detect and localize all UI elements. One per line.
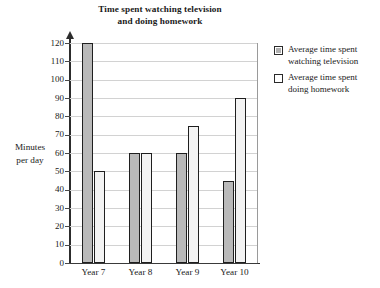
- bar-year-8-tv: [129, 153, 140, 263]
- chart-title: Time spent watching television and doing…: [60, 3, 260, 27]
- y-tick-80: [65, 116, 70, 117]
- y-tick-50: [65, 171, 70, 172]
- y-tick-30: [65, 208, 70, 209]
- y-tick-20: [65, 226, 70, 227]
- bar-year-9-tv: [176, 153, 187, 263]
- y-axis-arrow-icon: [66, 31, 74, 39]
- y-tick-110: [65, 61, 70, 62]
- y-tick-label-30: 30: [36, 204, 64, 213]
- legend-item-television: Average time spent watching television: [274, 44, 380, 67]
- chart-legend: Average time spent watching television A…: [274, 44, 380, 100]
- gridline-60: [70, 153, 258, 154]
- legend-label-television: Average time spent watching television: [288, 44, 358, 67]
- bar-year-10-hw: [235, 98, 246, 263]
- legend-label-television-line-1: Average time spent: [288, 44, 358, 56]
- chart-title-line-1: Time spent watching television: [60, 3, 260, 15]
- bar-year-7-tv: [82, 43, 93, 263]
- y-tick-70: [65, 135, 70, 136]
- bar-year-10-tv: [223, 181, 234, 264]
- legend-label-homework-line-1: Average time spent: [288, 72, 357, 84]
- gridline-90: [70, 98, 258, 99]
- legend-swatch-homework-icon: [274, 74, 283, 83]
- legend-label-homework-line-2: doing homework: [288, 84, 357, 96]
- gridline-110: [70, 61, 258, 62]
- y-axis-tick-labels: 0102030405060708090100110120: [31, 0, 64, 288]
- y-tick-90: [65, 98, 70, 99]
- y-tick-label-110: 110: [36, 57, 64, 66]
- bar-chart-figure: Time spent watching television and doing…: [0, 0, 380, 288]
- y-tick-label-10: 10: [36, 240, 64, 249]
- y-tick-label-90: 90: [36, 94, 64, 103]
- gridline-80: [70, 116, 258, 117]
- gridline-120: [70, 43, 258, 44]
- legend-label-television-line-2: watching television: [288, 56, 358, 68]
- y-tick-label-40: 40: [36, 185, 64, 194]
- gridline-100: [70, 80, 258, 81]
- gridline-70: [70, 135, 258, 136]
- x-label-year-10: Year 10: [207, 267, 263, 278]
- gridline-0: [70, 263, 258, 264]
- y-tick-60: [65, 153, 70, 154]
- y-tick-0: [65, 263, 70, 264]
- y-tick-120: [65, 43, 70, 44]
- plot-area: [70, 43, 258, 263]
- y-tick-label-100: 100: [36, 75, 64, 84]
- legend-swatch-television-icon: [274, 46, 283, 55]
- legend-item-homework: Average time spent doing homework: [274, 72, 380, 95]
- bar-year-9-hw: [188, 126, 199, 264]
- y-tick-40: [65, 190, 70, 191]
- y-tick-10: [65, 245, 70, 246]
- y-tick-label-20: 20: [36, 222, 64, 231]
- chart-title-line-2: and doing homework: [60, 15, 260, 27]
- legend-label-homework: Average time spent doing homework: [288, 72, 357, 95]
- y-tick-label-50: 50: [36, 167, 64, 176]
- y-tick-label-0: 0: [36, 259, 64, 268]
- y-tick-label-60: 60: [36, 149, 64, 158]
- y-tick-label-70: 70: [36, 130, 64, 139]
- bar-year-7-hw: [94, 171, 105, 263]
- y-tick-label-80: 80: [36, 112, 64, 121]
- plot-right-frame: [257, 43, 258, 263]
- bar-year-8-hw: [141, 153, 152, 263]
- y-tick-label-120: 120: [36, 39, 64, 48]
- y-tick-100: [65, 80, 70, 81]
